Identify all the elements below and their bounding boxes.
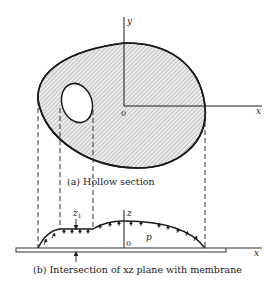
y-axis-label: y	[126, 16, 133, 26]
caption-a: (a) Hollow section	[67, 176, 155, 187]
membrane-curve	[38, 221, 205, 248]
x-axis-label-b: x	[254, 248, 259, 258]
origin-label-b: 0	[126, 239, 131, 248]
base-plate	[16, 248, 226, 252]
pressure-arrows	[44, 222, 197, 246]
caption-b: (b) Intersection of xz plane with membra…	[33, 264, 242, 275]
z-axis-label: z	[126, 208, 132, 218]
z1-arrows	[74, 219, 78, 262]
x-axis-label: x	[256, 106, 261, 116]
membrane-figure: z1 z 0 p x (b) Intersection of xz plane …	[16, 208, 262, 275]
hollow-section-figure: y x 0 (a) Hollow section	[38, 16, 262, 187]
pressure-label: p	[146, 232, 152, 242]
z1-label: z1	[72, 208, 82, 219]
hollow-section-membrane-diagram: y x 0 (a) Hollow section	[0, 0, 273, 282]
origin-label: 0	[121, 109, 126, 118]
